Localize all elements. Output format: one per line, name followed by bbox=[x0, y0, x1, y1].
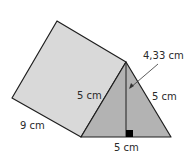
prism-diagram: 4,33 cm 5 cm 5 cm 5 cm 9 cm bbox=[0, 0, 192, 164]
label-right-side: 5 cm bbox=[152, 91, 177, 102]
right-angle-marker bbox=[126, 130, 133, 137]
label-base: 5 cm bbox=[114, 142, 139, 153]
label-length: 9 cm bbox=[20, 120, 45, 131]
label-left-side: 5 cm bbox=[77, 90, 102, 101]
label-height: 4,33 cm bbox=[143, 50, 184, 61]
